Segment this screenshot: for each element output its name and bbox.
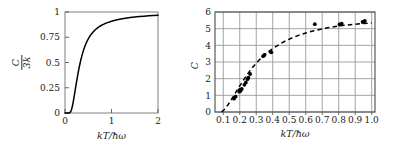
- data-point: [244, 81, 248, 85]
- plot-frame: [65, 12, 158, 113]
- x-tick-label-4: 0.5: [282, 115, 297, 125]
- data-point: [270, 50, 274, 54]
- data-point: [248, 72, 252, 76]
- left-chart-svg: 00.250.50.751012kT/ħωC3k: [0, 0, 196, 155]
- y-tick-label-5: 5: [205, 24, 211, 34]
- right-chart-svg: 01234560.10.20.30.40.50.60.70.80.91.0kT/…: [190, 0, 393, 155]
- data-point: [234, 95, 238, 99]
- y-tick-label-0: 0: [205, 107, 211, 117]
- x-tick-label-7: 0.8: [332, 115, 347, 125]
- right-chart-panel: 01234560.10.20.30.40.50.60.70.80.91.0kT/…: [190, 0, 393, 155]
- x-tick-label-3: 0.4: [266, 115, 281, 125]
- data-point: [263, 53, 267, 57]
- x-tick-label-2: 0.3: [249, 115, 264, 125]
- x-tick-label-1: 1: [109, 116, 115, 126]
- left-chart-panel: 00.250.50.751012kT/ħωC3k: [0, 0, 196, 155]
- y-tick-label-1: 0.25: [40, 83, 60, 93]
- x-tick-label-8: 0.9: [348, 115, 363, 125]
- y-tick-label-0: 0: [54, 108, 60, 118]
- x-tick-label-2: 2: [155, 116, 161, 126]
- y-tick-label-4: 1: [54, 7, 60, 17]
- data-point: [240, 87, 244, 91]
- data-point: [340, 22, 344, 26]
- x-tick-label-5: 0.6: [299, 115, 314, 125]
- y-tick-label-3: 0.75: [40, 32, 60, 42]
- data-point: [363, 19, 367, 23]
- x-axis-label: kT/ħω: [97, 130, 126, 141]
- y-tick-label-4: 4: [205, 41, 211, 51]
- x-tick-label-0: 0: [62, 116, 68, 126]
- x-tick-label-1: 0.2: [233, 115, 247, 125]
- y-axis-label-numerator: C: [10, 58, 21, 66]
- x-axis-label: kT/ħω: [280, 128, 309, 139]
- y-tick-label-3: 3: [205, 57, 211, 67]
- y-axis-label-denominator: 3k: [21, 56, 32, 68]
- x-tick-label-0: 0.1: [216, 115, 230, 125]
- y-axis-label-group: C3k: [10, 55, 32, 70]
- figure-root: 00.250.50.751012kT/ħωC3k 01234560.10.20.…: [0, 0, 393, 155]
- y-tick-label-2: 2: [205, 74, 211, 84]
- y-tick-label-2: 0.5: [46, 58, 61, 68]
- y-tick-label-6: 6: [205, 7, 211, 17]
- x-tick-label-9: 1.0: [365, 115, 380, 125]
- data-point: [313, 22, 317, 26]
- fit-curve-dashed: [222, 23, 372, 112]
- data-point: [246, 76, 250, 80]
- curve-einstein: [65, 15, 158, 113]
- x-tick-label-6: 0.7: [315, 115, 330, 125]
- y-tick-label-1: 1: [205, 91, 211, 101]
- y-axis-label: C: [190, 61, 200, 69]
